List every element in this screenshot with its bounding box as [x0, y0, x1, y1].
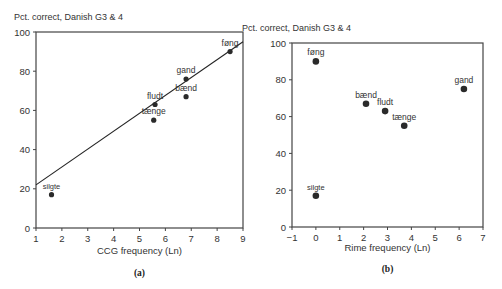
- regression-line: [36, 42, 243, 185]
- point-label: bænd: [355, 90, 377, 100]
- data-point: [227, 49, 232, 54]
- x-tick-label: 5: [137, 233, 142, 244]
- y-tick-label: 40: [275, 148, 286, 159]
- point-label: tænge: [392, 112, 416, 122]
- x-tick-label: 9: [240, 233, 245, 244]
- plot-frame: [292, 43, 483, 227]
- data-point: [49, 192, 54, 197]
- data-point: [152, 102, 157, 107]
- data-point: [401, 123, 408, 130]
- x-tick-label: 4: [111, 233, 116, 244]
- x-tick-label: 3: [85, 233, 90, 244]
- x-tick-label: 6: [163, 233, 168, 244]
- figure-caption: (b): [382, 264, 394, 275]
- x-tick-label: 5: [433, 232, 438, 243]
- point-label: bænd: [175, 83, 197, 93]
- x-tick-label: −1: [287, 232, 298, 243]
- data-point: [313, 58, 320, 65]
- x-axis-label: CCG frequency (Ln): [97, 245, 182, 256]
- x-axis-label: Rime frequency (Ln): [344, 242, 430, 253]
- chart-b-rime-frequency: Pct. correct, Danish G3 & 4020406080100−…: [242, 23, 486, 275]
- data-point: [363, 100, 370, 107]
- x-tick-label: 0: [313, 232, 318, 243]
- y-tick-label: 20: [19, 183, 30, 194]
- data-point: [461, 86, 468, 93]
- data-point: [183, 76, 188, 81]
- y-tick-label: 100: [270, 38, 286, 49]
- figure: Pct. correct, Danish G3 & 40204060801001…: [0, 0, 502, 289]
- point-label: fludt: [147, 91, 164, 101]
- point-label: tænge: [142, 106, 166, 116]
- chart-title: Pct. correct, Danish G3 & 4: [242, 23, 351, 33]
- point-label: føng: [222, 38, 239, 48]
- y-tick-label: 0: [281, 222, 286, 233]
- point-label: føng: [307, 47, 324, 57]
- x-tick-label: 2: [59, 233, 64, 244]
- x-tick-label: 1: [337, 232, 342, 243]
- y-tick-label: 80: [275, 74, 286, 85]
- point-label: silgte: [43, 182, 61, 191]
- point-label: gand: [177, 65, 196, 75]
- x-tick-label: 7: [480, 232, 485, 243]
- y-tick-label: 100: [14, 27, 30, 38]
- chart-a-ccg-frequency: Pct. correct, Danish G3 & 40204060801001…: [14, 12, 246, 279]
- point-label: silgte: [307, 183, 325, 192]
- y-tick-label: 20: [275, 185, 286, 196]
- y-tick-label: 0: [25, 223, 30, 234]
- chart-title: Pct. correct, Danish G3 & 4: [14, 12, 123, 22]
- point-label: gand: [454, 75, 473, 85]
- plot-frame: [36, 32, 243, 228]
- data-point: [313, 192, 320, 199]
- data-point: [151, 118, 156, 123]
- data-point: [382, 108, 389, 115]
- x-tick-label: 6: [456, 232, 461, 243]
- x-tick-label: 7: [189, 233, 194, 244]
- x-tick-label: 8: [214, 233, 219, 244]
- y-tick-label: 80: [19, 66, 30, 77]
- point-label: fludt: [377, 97, 394, 107]
- y-tick-label: 60: [275, 111, 286, 122]
- x-tick-label: 1: [33, 233, 38, 244]
- y-tick-label: 60: [19, 105, 30, 116]
- y-tick-label: 40: [19, 144, 30, 155]
- data-point: [183, 94, 188, 99]
- figure-caption: (a): [134, 268, 145, 279]
